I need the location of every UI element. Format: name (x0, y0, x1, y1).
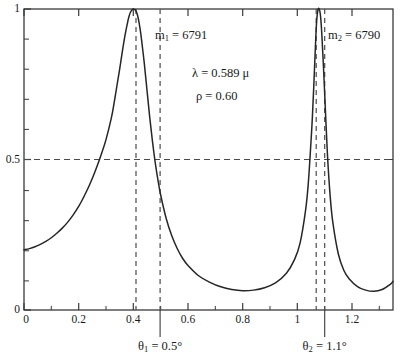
order-2-equals: = (342, 28, 355, 42)
annotation-theta-2: θ2 = 1.1° (303, 340, 347, 353)
theta-1-value: 0.5° (162, 339, 183, 353)
x-tick-label-1: 1 (294, 314, 300, 326)
annotation-order-2: m2 = 6790 (328, 29, 380, 42)
x-tick-label-0-8: 0.8 (236, 314, 250, 326)
order-1-symbol: m (155, 28, 165, 42)
y-tick-label-0-5: 0.5 (0, 154, 20, 166)
order-1-value: 6791 (182, 28, 207, 42)
chart-figure: 1 0.5 0 0 0.2 0.4 0.6 0.8 1 1.2 m1 = 679… (0, 0, 402, 361)
order-1-equals: = (169, 28, 182, 42)
x-tick-label-0-6: 0.6 (181, 314, 195, 326)
x-tick-label-0: 0 (23, 314, 29, 326)
x-tick-label-0-2: 0.2 (72, 314, 86, 326)
annotation-reflectance: ρ = 0.60 (196, 90, 237, 103)
order-2-symbol: m (328, 28, 338, 42)
theta-2-value: 1.1° (326, 339, 347, 353)
y-tick-label-0: 0 (2, 304, 20, 316)
annotation-wavelength: λ = 0.589 μ (192, 67, 249, 80)
x-tick-label-1-2: 1.2 (345, 314, 359, 326)
theta-1-equals: = (148, 339, 161, 353)
transmission-plot (0, 0, 402, 361)
x-tick-label-0-4: 0.4 (126, 314, 140, 326)
y-tick-label-1: 1 (2, 3, 20, 15)
theta-2-equals: = (313, 339, 326, 353)
annotation-theta-1: θ1 = 0.5° (138, 340, 182, 353)
annotation-order-1: m1 = 6791 (155, 29, 207, 42)
order-2-value: 6790 (355, 28, 380, 42)
